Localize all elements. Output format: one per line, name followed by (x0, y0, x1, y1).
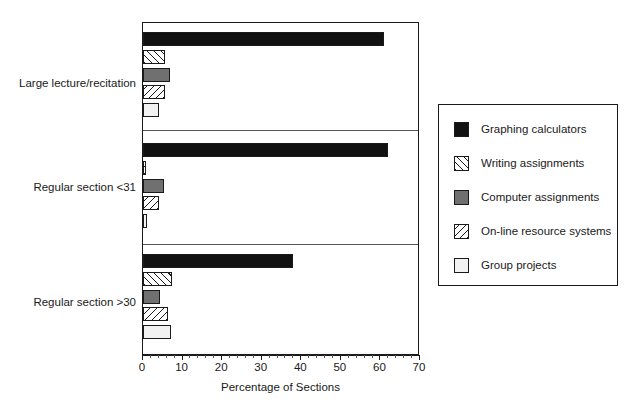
group-separator-1 (143, 130, 418, 131)
x-minor-tick (205, 355, 206, 358)
x-minor-tick (387, 355, 388, 358)
legend-item-online-resource-systems: On-line resource systems (454, 223, 611, 239)
bar-1-0 (143, 143, 388, 157)
bar-2-2 (143, 290, 160, 304)
legend-item-writing-assignments: Writing assignments (454, 155, 584, 171)
x-minor-tick (284, 355, 285, 358)
legend-swatch-icon-3 (454, 224, 469, 239)
legend-label-0: Graphing calculators (481, 123, 586, 135)
x-tick-label-3: 30 (241, 361, 281, 373)
legend-label-3: On-line resource systems (481, 225, 611, 237)
x-tick-label-6: 60 (359, 361, 399, 373)
x-axis-title: Percentage of Sections (142, 381, 419, 393)
bar-2-3 (143, 307, 168, 321)
legend: Graphing calculators Writing assignments… (438, 104, 618, 286)
x-tick-1 (182, 355, 183, 360)
category-label-2: Regular section >30 (6, 296, 136, 308)
x-minor-tick (372, 355, 373, 358)
x-minor-tick (395, 355, 396, 358)
x-minor-tick (411, 355, 412, 358)
x-minor-tick (348, 355, 349, 358)
x-minor-tick (356, 355, 357, 358)
x-minor-tick (324, 355, 325, 358)
x-minor-tick (245, 355, 246, 358)
legend-swatch-icon-2 (454, 190, 469, 205)
group-separator-2 (143, 244, 418, 245)
legend-item-group-projects: Group projects (454, 257, 556, 273)
bar-0-4 (143, 103, 159, 117)
bar-chart: Large lecture/recitation Regular section… (0, 0, 637, 409)
x-tick-4 (300, 355, 301, 360)
category-label-0: Large lecture/recitation (6, 77, 136, 89)
x-minor-tick (277, 355, 278, 358)
x-minor-tick (316, 355, 317, 358)
x-tick-2 (221, 355, 222, 360)
x-tick-label-1: 10 (162, 361, 202, 373)
bar-0-3 (143, 85, 165, 99)
x-minor-tick (150, 355, 151, 358)
x-minor-tick (269, 355, 270, 358)
x-minor-tick (166, 355, 167, 358)
bar-1-3 (143, 196, 159, 210)
bar-1-4 (143, 214, 147, 228)
x-minor-tick (308, 355, 309, 358)
x-minor-tick (158, 355, 159, 358)
x-tick-5 (340, 355, 341, 360)
x-minor-tick (213, 355, 214, 358)
x-axis-line (142, 355, 419, 356)
bar-0-2 (143, 68, 170, 82)
plot-area (142, 22, 419, 355)
x-minor-tick (197, 355, 198, 358)
category-axis-labels: Large lecture/recitation Regular section… (0, 0, 136, 409)
x-tick-label-5: 50 (320, 361, 360, 373)
legend-item-computer-assignments: Computer assignments (454, 189, 599, 205)
x-minor-tick (229, 355, 230, 358)
x-minor-tick (174, 355, 175, 358)
x-minor-tick (403, 355, 404, 358)
x-minor-tick (189, 355, 190, 358)
legend-swatch-icon-1 (454, 156, 469, 171)
legend-label-2: Computer assignments (481, 191, 599, 203)
x-tick-7 (419, 355, 420, 360)
x-tick-label-4: 40 (280, 361, 320, 373)
bar-0-0 (143, 32, 384, 46)
legend-item-graphing-calculators: Graphing calculators (454, 121, 586, 137)
x-tick-3 (261, 355, 262, 360)
bar-2-1 (143, 272, 172, 286)
x-minor-tick (364, 355, 365, 358)
x-minor-tick (332, 355, 333, 358)
legend-label-4: Group projects (481, 259, 556, 271)
bar-0-1 (143, 50, 165, 64)
x-minor-tick (292, 355, 293, 358)
bar-1-2 (143, 179, 164, 193)
x-minor-tick (253, 355, 254, 358)
x-tick-6 (379, 355, 380, 360)
legend-label-1: Writing assignments (481, 157, 584, 169)
category-label-1: Regular section <31 (6, 181, 136, 193)
bar-2-0 (143, 254, 293, 268)
x-minor-tick (237, 355, 238, 358)
legend-swatch-icon-4 (454, 258, 469, 273)
x-tick-label-0: 0 (122, 361, 162, 373)
bar-1-1 (143, 161, 146, 175)
bar-2-4 (143, 325, 171, 339)
x-tick-label-2: 20 (201, 361, 241, 373)
x-tick-label-7: 70 (399, 361, 439, 373)
legend-swatch-icon-0 (454, 122, 469, 137)
x-tick-0 (142, 355, 143, 360)
